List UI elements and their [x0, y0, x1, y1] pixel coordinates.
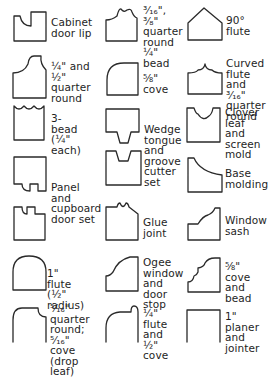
- label-planer-jointer: 1" planer and jointer: [225, 311, 260, 353]
